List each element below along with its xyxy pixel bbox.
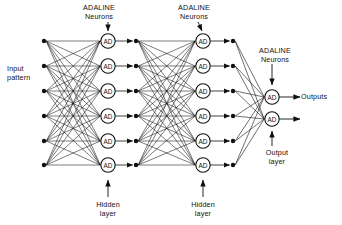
input-node-2 [42, 89, 46, 93]
label-adaline-neurons-2: ADALINE Neurons [166, 3, 222, 22]
relay2-node-0 [231, 39, 235, 43]
label-input-pattern: Input pattern [7, 64, 47, 83]
relay2-node-5 [231, 163, 235, 167]
edges-relay1-to-hidden2 [138, 41, 195, 165]
input-node-5 [42, 163, 46, 167]
hidden-layer-1-node-2: AD [101, 84, 115, 98]
hidden-layer-1-node-5: AD [101, 158, 115, 172]
label-hidden-layer-1: Hidden layer [83, 200, 133, 219]
relay2-node-4 [231, 139, 235, 143]
hidden-layer-2-node-3: AD [196, 109, 210, 123]
hidden-layer-2-node-2: AD [196, 84, 210, 98]
hidden-layer-1-node-0: AD [101, 34, 115, 48]
input-node-0 [42, 39, 46, 43]
label-adaline-neurons-3: ADALINE Neurons [247, 46, 303, 65]
relay-column-2-nodes [231, 39, 235, 167]
label-adaline-neurons-1: ADALINE Neurons [71, 3, 127, 22]
relay1-node-3 [134, 114, 138, 118]
hidden-layer-1-node-3: AD [101, 109, 115, 123]
adaline-node-label: AD [104, 138, 113, 145]
connection-line [235, 119, 264, 141]
relay1-node-1 [134, 64, 138, 68]
pointer-adaline-neurons-2 [198, 22, 202, 31]
label-hidden-layer-2: Hidden layer [178, 200, 228, 219]
input-layer-nodes [42, 39, 46, 167]
adaline-node-label: AD [268, 94, 277, 101]
relay1-node-2 [134, 89, 138, 93]
relay1-node-5 [134, 163, 138, 167]
adaline-node-label: AD [104, 113, 113, 120]
network-graphic: ADADADADADAD ADADADADADAD ADAD [0, 0, 342, 225]
edges-hidden2-to-relay2 [210, 41, 229, 165]
adaline-node-label: AD [104, 162, 113, 169]
input-node-3 [42, 114, 46, 118]
adaline-node-label: AD [199, 63, 208, 70]
hidden-layer-2-node-0: AD [196, 34, 210, 48]
adaline-node-label: AD [104, 88, 113, 95]
adaline-node-label: AD [199, 162, 208, 169]
output-layer-node-0: AD [265, 90, 279, 104]
hidden-layer-2-node-4: AD [196, 134, 210, 148]
adaline-node-label: AD [104, 38, 113, 45]
hidden-layer-1-node-1: AD [101, 59, 115, 73]
relay2-node-2 [231, 89, 235, 93]
input-node-4 [42, 139, 46, 143]
output-layer-nodes: ADAD [265, 90, 279, 126]
edges-input-to-hidden1 [46, 41, 100, 165]
hidden-layer-1-nodes: ADADADADADAD [101, 34, 115, 172]
adaline-node-label: AD [199, 113, 208, 120]
relay1-node-0 [134, 39, 138, 43]
adaline-node-label: AD [199, 88, 208, 95]
label-output-layer: Output layer [252, 148, 302, 167]
relay2-node-3 [231, 114, 235, 118]
neural-network-diagram: ADADADADADAD ADADADADADAD ADAD ADALINE N… [0, 0, 342, 225]
connection-line [235, 97, 264, 141]
edges-hidden1-to-relay1 [115, 41, 132, 165]
connection-line [235, 91, 264, 119]
relay-column-1-nodes [134, 39, 138, 167]
label-outputs: Outputs [301, 92, 341, 101]
output-layer-node-1: AD [265, 112, 279, 126]
adaline-node-label: AD [199, 38, 208, 45]
relay2-node-1 [231, 64, 235, 68]
relay1-node-4 [134, 139, 138, 143]
adaline-node-label: AD [268, 116, 277, 123]
adaline-node-label: AD [104, 63, 113, 70]
hidden-layer-2-nodes: ADADADADADAD [196, 34, 210, 172]
hidden-layer-2-node-5: AD [196, 158, 210, 172]
hidden-layer-1-node-4: AD [101, 134, 115, 148]
hidden-layer-2-node-1: AD [196, 59, 210, 73]
adaline-node-label: AD [199, 138, 208, 145]
output-arrows [279, 97, 300, 119]
